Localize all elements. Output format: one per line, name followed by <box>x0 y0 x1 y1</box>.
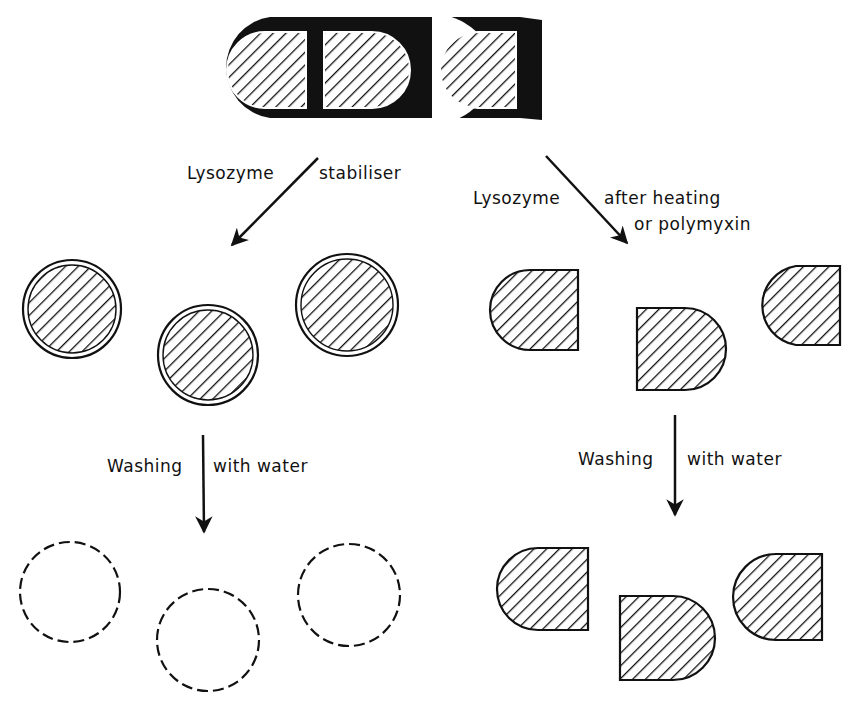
label-left-stabiliser: stabiliser <box>319 163 401 183</box>
half-cells-right-mid <box>490 266 840 390</box>
spheroplasts-left <box>23 254 398 405</box>
label-left-with-water: with water <box>213 456 308 476</box>
label-right-lysozyme: Lysozyme <box>473 188 560 208</box>
label-left-lysozyme: Lysozyme <box>187 163 274 183</box>
dividing-cell <box>226 14 542 124</box>
label-right-washing: Washing <box>578 449 654 469</box>
arrow-left-mid <box>203 435 204 532</box>
label-right-with-water: with water <box>687 449 782 469</box>
lysed-ghosts-left <box>20 542 400 691</box>
half-cells-right-bottom <box>497 548 822 680</box>
diagram-canvas <box>0 0 862 711</box>
label-left-washing: Washing <box>107 456 183 476</box>
label-right-polymyxin: or polymyxin <box>634 214 751 234</box>
label-right-after-heating: after heating <box>604 188 721 208</box>
